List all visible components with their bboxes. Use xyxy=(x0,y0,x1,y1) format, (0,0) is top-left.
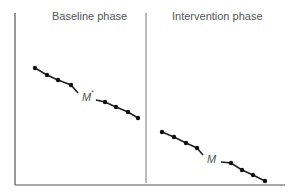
mean-label: M xyxy=(207,153,217,165)
mean-label: M* xyxy=(82,89,94,103)
data-point xyxy=(195,146,199,150)
intervention-phase-label: Intervention phase xyxy=(172,10,263,22)
data-point xyxy=(126,110,130,114)
data-point xyxy=(69,83,73,87)
data-point xyxy=(136,116,140,120)
data-point xyxy=(229,161,233,165)
data-point xyxy=(172,135,176,139)
data-series: M*M xyxy=(33,66,267,183)
data-point xyxy=(45,73,49,77)
data-point xyxy=(184,141,188,145)
trend-line xyxy=(162,132,203,155)
data-point xyxy=(251,173,255,177)
baseline-phase-label: Baseline phase xyxy=(52,10,127,22)
data-point xyxy=(56,78,60,82)
data-point xyxy=(103,100,107,104)
single-case-design-chart: M*M xyxy=(0,0,296,195)
data-point xyxy=(33,66,37,70)
trend-line xyxy=(96,100,138,118)
data-point xyxy=(160,130,164,134)
data-point xyxy=(240,168,244,172)
data-point xyxy=(114,105,118,109)
data-point xyxy=(263,179,267,183)
